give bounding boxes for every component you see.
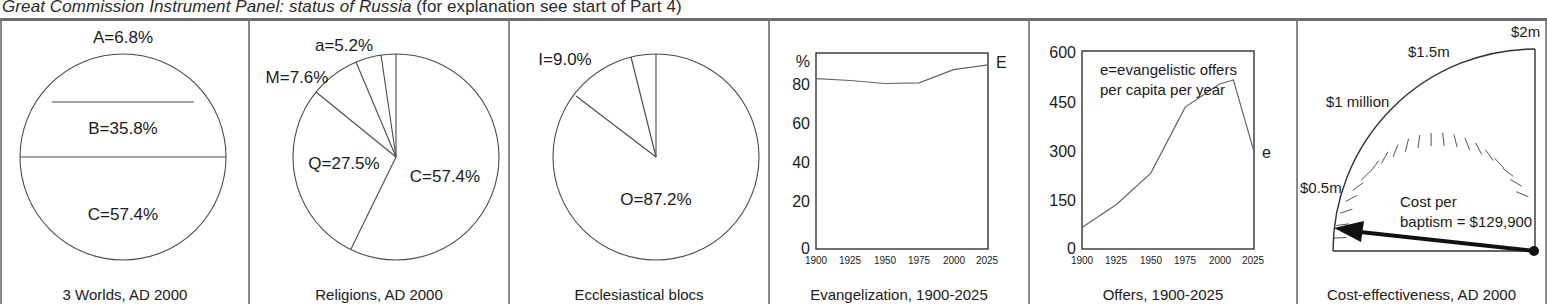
instrument-panel: Great Commission Instrument Panel: statu… [0,0,1547,304]
ytick-150: 150 [1049,192,1076,209]
series-label-e: e [1262,144,1271,161]
ytick-600: 600 [1049,44,1076,61]
caption-evangelization: Evangelization, 1900-2025 [770,286,1028,303]
page-title-note: (for explanation see start of Part 4) [411,0,681,16]
label-slice-i: I=9.0% [538,50,591,69]
pie-cut-1 [631,57,656,157]
chart-ecclesiastical-blocs: I=9.0% O=87.2% Ecclesiastical blocs [510,21,768,304]
label-slice-q: Q=27.5% [308,154,379,173]
label-slice-a: a=5.2% [315,36,373,55]
xtick-1900: 1900 [1071,255,1094,266]
caption-three-worlds: 3 Worlds, AD 2000 [2,286,248,303]
label-slice-m: M=7.6% [266,68,329,87]
evangelization-graphic: % 80 60 40 20 0 1900 1925 1950 1975 2000… [770,21,1028,286]
page-title: Great Commission Instrument Panel: statu… [2,0,682,17]
three-worlds-graphic: A=6.8% B=35.8% C=57.4% [2,21,248,286]
plot-frame [816,53,988,249]
xtick-2000: 2000 [1209,255,1232,266]
gauge-label-1-5m: $1.5m [1408,43,1450,60]
evangelization-svg: % 80 60 40 20 0 1900 1925 1950 1975 2000… [770,21,1028,286]
gauge-readout-line-1: Cost per [1400,193,1457,210]
pie-cut-3 [316,92,396,157]
xtick-1900: 1900 [805,255,828,266]
caption-cost-effectiveness: Cost-effectiveness, AD 2000 [1298,286,1545,303]
gauge-graphic: $0.5m $1 million $1.5m $2m Cost per bapt… [1298,21,1545,286]
gauge-readout-line-2: baptism = $129,900 [1400,213,1532,230]
series-line-E [816,65,988,84]
xtick-1925: 1925 [839,255,862,266]
series-line-e [1082,80,1254,228]
ytick-40: 40 [792,154,810,171]
offers-graphic: 600 450 300 150 0 1900 1925 1950 1975 20… [1030,21,1296,286]
needle-pivot [1529,246,1539,256]
ytick-20: 20 [792,193,810,210]
ytick-300: 300 [1049,143,1076,160]
three-worlds-svg: A=6.8% B=35.8% C=57.4% [2,21,248,286]
ecclesiastical-svg: I=9.0% O=87.2% [510,21,768,286]
yaxis-unit-label: % [796,53,810,70]
ecclesiastical-graphic: I=9.0% O=87.2% [510,21,768,286]
caption-offers: Offers, 1900-2025 [1030,286,1296,303]
xtick-2000: 2000 [943,255,966,266]
panel-title-bar: Great Commission Instrument Panel: statu… [0,0,1547,18]
gauge-svg: $0.5m $1 million $1.5m $2m Cost per bapt… [1298,21,1545,286]
xtick-2025: 2025 [976,255,999,266]
xtick-1950: 1950 [874,255,897,266]
pie-cut-2 [576,96,656,157]
caption-religions: Religions, AD 2000 [250,286,508,303]
chart-religions: a=5.2% M=7.6% Q=27.5% C=57.4% Religions,… [250,21,508,304]
ytick-60: 60 [792,115,810,132]
gauge-label-0-5m: $0.5m [1300,179,1342,196]
label-segment-a: A=6.8% [93,28,153,47]
chart-cost-effectiveness: $0.5m $1 million $1.5m $2m Cost per bapt… [1298,21,1545,304]
pie-cut-2 [356,62,396,157]
ytick-80: 80 [792,76,810,93]
series-label-E: E [996,54,1007,71]
label-segment-c: C=57.4% [88,205,158,224]
religions-graphic: a=5.2% M=7.6% Q=27.5% C=57.4% [250,21,508,286]
xtick-1950: 1950 [1140,255,1163,266]
ytick-450: 450 [1049,94,1076,111]
label-slice-o: O=87.2% [620,190,691,209]
caption-ecclesiastical-blocs: Ecclesiastical blocs [510,286,768,303]
xtick-2025: 2025 [1242,255,1265,266]
pie-cut-1 [381,55,396,157]
offers-svg: 600 450 300 150 0 1900 1925 1950 1975 20… [1030,21,1296,286]
chart-evangelization: % 80 60 40 20 0 1900 1925 1950 1975 2000… [770,21,1028,304]
label-segment-b: B=35.8% [88,119,157,138]
page-title-italic: Great Commission Instrument Panel: statu… [2,0,411,16]
needle-arrowhead [1334,221,1364,242]
label-slice-c: C=57.4% [410,167,480,186]
xtick-1975: 1975 [1174,255,1197,266]
xtick-1975: 1975 [908,255,931,266]
chart-offers: 600 450 300 150 0 1900 1925 1950 1975 20… [1030,21,1296,304]
gauge-label-2m: $2m [1511,23,1540,40]
xtick-1925: 1925 [1105,255,1128,266]
chart-three-worlds: A=6.8% B=35.8% C=57.4% 3 Worlds, AD 2000 [2,21,248,304]
religions-svg: a=5.2% M=7.6% Q=27.5% C=57.4% [250,21,508,286]
gauge-label-1-million: $1 million [1326,93,1389,110]
annotation-line-2: per capita per year [1100,81,1225,98]
annotation-line-1: e=evangelistic offers [1100,61,1237,78]
